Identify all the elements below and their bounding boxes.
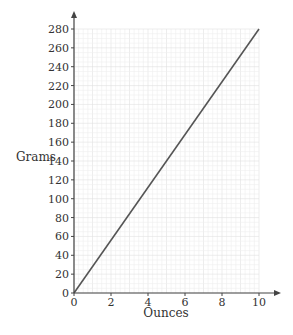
x-tick-label: 10 bbox=[252, 296, 266, 309]
y-tick-label: 160 bbox=[48, 136, 69, 149]
y-axis-title: Grams bbox=[16, 150, 56, 164]
x-tick-label: 8 bbox=[219, 296, 226, 309]
y-tick-label: 0 bbox=[62, 287, 69, 300]
y-tick-label: 180 bbox=[48, 117, 69, 130]
y-tick-label: 40 bbox=[55, 249, 69, 262]
y-tick-label: 100 bbox=[48, 193, 69, 206]
x-axis-arrow-icon bbox=[274, 290, 281, 296]
y-axis-arrow-icon bbox=[71, 11, 77, 18]
y-tick-label: 280 bbox=[48, 23, 69, 36]
y-tick-label: 200 bbox=[48, 98, 69, 111]
y-tick-label: 20 bbox=[55, 268, 69, 281]
conversion-chart: 020406080100120140160180200220240260280 … bbox=[0, 0, 293, 335]
x-axis-title: Ounces bbox=[143, 306, 188, 320]
y-tick-label: 240 bbox=[48, 61, 69, 74]
x-tick-label: 2 bbox=[108, 296, 115, 309]
y-tick-label: 260 bbox=[48, 42, 69, 55]
y-tick-label: 60 bbox=[55, 230, 69, 243]
y-tick-label: 220 bbox=[48, 80, 69, 93]
x-tick-label: 0 bbox=[71, 296, 78, 309]
y-tick-label: 120 bbox=[48, 174, 69, 187]
y-tick-label: 80 bbox=[55, 212, 69, 225]
